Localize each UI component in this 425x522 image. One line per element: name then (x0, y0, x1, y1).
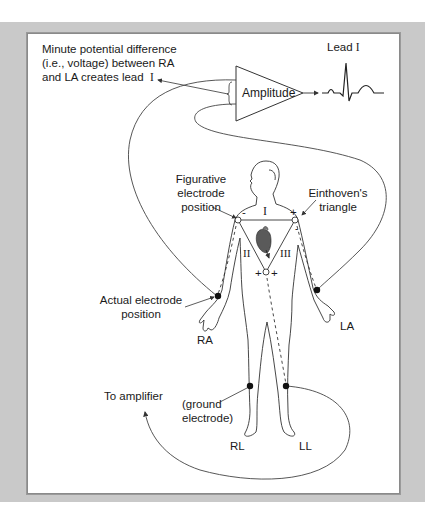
figurative-line1: Figurative (166, 172, 236, 186)
figurative-line2: electrode (166, 186, 236, 200)
actual-electrode-label: Actual electrode position (95, 293, 187, 321)
triangle-side-ii: II (243, 246, 250, 260)
ra-label: RA (197, 333, 213, 347)
sign-ra-minus: - (242, 205, 246, 219)
heart-icon (256, 226, 271, 252)
sign-la-plus: + (290, 205, 297, 219)
potential-label-text: and LA creates lead (42, 71, 144, 83)
electrode-dots (215, 287, 320, 389)
ecg-waveform-icon (322, 63, 384, 101)
potential-label-line2: (i.e., voltage) between RA (42, 56, 174, 70)
sign-la-minus: - (295, 222, 298, 236)
einthoven-line1: Einthoven's (303, 186, 373, 200)
einthoven-label: Einthoven's triangle (303, 186, 373, 214)
to-amplifier-label: To amplifier (104, 389, 163, 403)
potential-label-line3: and LA creates lead I (42, 70, 154, 84)
la-label: LA (340, 319, 354, 333)
sign-ll-plus-left: + (255, 266, 262, 280)
lead-output-text: Lead (327, 41, 353, 53)
triangle-side-i: I (263, 204, 267, 218)
amplitude-label: Amplitude (242, 86, 295, 100)
ll-label: LL (299, 439, 312, 453)
figurative-label: Figurative electrode position (166, 172, 236, 214)
lead-output-numeral: I (356, 41, 360, 53)
la-electrode (314, 287, 320, 293)
rl-label: RL (230, 439, 245, 453)
lead-output-label: Lead I (327, 40, 360, 54)
ground-line2: electrode) (182, 411, 233, 425)
sign-ll-plus-right: + (271, 266, 278, 280)
ra-electrode (215, 293, 221, 299)
actual-line1: Actual electrode (95, 293, 187, 307)
actual-line2: position (95, 307, 187, 321)
triangle-side-iii: III (280, 246, 291, 260)
ll-electrode (283, 383, 289, 389)
ground-line1: (ground (182, 397, 233, 411)
rl-electrode (247, 383, 253, 389)
figurative-line3: position (166, 200, 236, 214)
ground-electrode-label: (ground electrode) (182, 397, 233, 425)
potential-label-line1: Minute potential difference (42, 42, 177, 56)
einthoven-line2: triangle (303, 200, 373, 214)
potential-lead-numeral: I (150, 71, 154, 83)
